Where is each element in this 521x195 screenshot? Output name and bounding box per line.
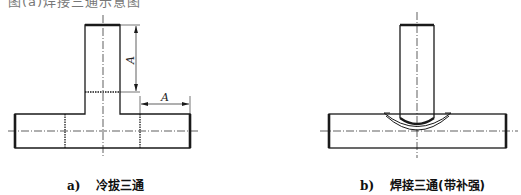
figure-b-title: 焊接三通(带补强) [390,179,485,193]
dimension-label-run: A [160,91,169,104]
figure-a-label: a) [67,179,80,193]
figure-a-caption: a)冷拔三通 [67,176,144,193]
figure-b-label: b) [360,179,374,193]
figure-b-drawing [320,12,518,158]
figure-a-drawing [8,15,198,158]
dimension-label-branch: A [124,56,137,65]
tee-diagrams: A A [0,0,521,195]
figure-b-caption: b)焊接三通(带补强) [360,176,485,193]
figure-a-title: 冷拔三通 [96,179,144,193]
